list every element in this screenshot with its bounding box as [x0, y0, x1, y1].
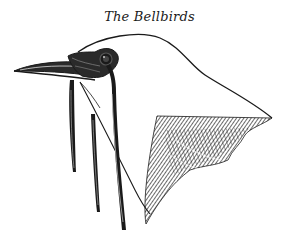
wattles: [69, 64, 126, 230]
bellbird-illustration: [0, 0, 299, 239]
bird-back-outline: [78, 34, 272, 118]
wing-shading: [145, 116, 272, 224]
